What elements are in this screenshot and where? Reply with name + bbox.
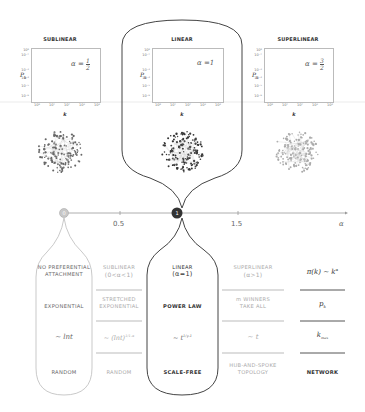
ytick-label: 10⁻¹ bbox=[15, 53, 29, 57]
cell-lin-network: SCALE-FREE bbox=[147, 369, 218, 376]
xtick-label: 10³ bbox=[76, 103, 88, 107]
xtick-label: 10⁴ bbox=[91, 103, 103, 107]
marker-label-1: 1 bbox=[174, 210, 180, 216]
cell-nopa-type: NO PREFERENTIALATTACHMENT bbox=[36, 264, 92, 278]
axis-label-0-5: 0.5 bbox=[113, 220, 124, 228]
xtick-label: 10⁰ bbox=[31, 103, 43, 107]
cell-nopa-kmax: ~ lnt bbox=[36, 334, 92, 341]
xtick-label: 10¹ bbox=[167, 103, 179, 107]
cell-nopa-network: RANDOM bbox=[36, 369, 92, 376]
legend-pi-k: π(k) ~ kα bbox=[300, 266, 345, 276]
xtick-label: 10² bbox=[182, 103, 194, 107]
cell-sup-type: SUPERLINEAR(α>1) bbox=[222, 264, 284, 278]
ytick-label: 10⁰ bbox=[248, 48, 262, 52]
ytick-label: 10⁻⁶ bbox=[136, 94, 150, 98]
legend-kmax: kmax bbox=[300, 332, 345, 342]
ytick-label: 10⁻³ bbox=[248, 68, 262, 72]
ytick-label: 10⁻⁴ bbox=[248, 76, 262, 80]
legend-network: NETWORK bbox=[300, 369, 345, 376]
cell-lin-type: LINEAR(α=1) bbox=[147, 264, 218, 278]
panel-title-superlinear: SUPERLINEAR bbox=[258, 36, 338, 42]
alpha-label-sublinear: α = 1 2 bbox=[71, 58, 90, 71]
xtick-label: 10⁴ bbox=[212, 103, 224, 107]
xtick-label: 10⁰ bbox=[264, 103, 276, 107]
ytick-label: 10⁻¹ bbox=[136, 53, 150, 57]
ytick-label: 10⁻⁴ bbox=[136, 76, 150, 80]
xtick-label: 10² bbox=[294, 103, 306, 107]
cell-lin-pk: POWER LAW bbox=[147, 303, 218, 310]
xtick-label: 10³ bbox=[309, 103, 321, 107]
ytick-label: 10⁻⁵ bbox=[248, 84, 262, 88]
ytick-label: 10⁰ bbox=[15, 48, 29, 52]
ytick-label: 10⁻³ bbox=[15, 68, 29, 72]
panel-title-sublinear: SUBLINEAR bbox=[20, 36, 100, 42]
ytick-label: 10⁻³ bbox=[136, 68, 150, 72]
cell-sub-network: RANDOM bbox=[96, 369, 142, 376]
ytick-label: 10⁰ bbox=[136, 48, 150, 52]
alpha-label-linear: α =1 bbox=[197, 59, 214, 67]
cell-sub-pk: STRETCHEDEXPONENTIAL bbox=[96, 296, 142, 310]
xlabel-superlinear: k bbox=[289, 111, 299, 117]
cell-lin-kmax: ~ t1/γ-1 bbox=[147, 333, 218, 342]
cell-sub-kmax: ~ (lnt)1/1-α bbox=[96, 333, 142, 342]
xtick-label: 10¹ bbox=[46, 103, 58, 107]
marker-label-0: 0 bbox=[61, 210, 67, 216]
cell-sup-kmax: ~ t bbox=[222, 334, 284, 341]
cell-sup-pk: m WINNERSTAKE ALL bbox=[222, 296, 284, 310]
xtick-label: 10⁴ bbox=[324, 103, 336, 107]
legend-pk: pk bbox=[300, 301, 345, 310]
xlabel-sublinear: k bbox=[60, 111, 70, 117]
xtick-label: 10⁰ bbox=[152, 103, 164, 107]
xtick-label: 10² bbox=[61, 103, 73, 107]
cell-nopa-pk: EXPONENTIAL bbox=[36, 303, 92, 310]
alpha-label-superlinear: α = 3 2 bbox=[305, 58, 324, 71]
panel-title-linear: LINEAR bbox=[142, 36, 222, 42]
ytick-label: 10⁻⁴ bbox=[15, 76, 29, 80]
xtick-label: 10³ bbox=[197, 103, 209, 107]
ytick-label: 10⁻⁵ bbox=[136, 84, 150, 88]
ytick-label: 10⁻⁶ bbox=[15, 94, 29, 98]
cell-sup-network: HUB-AND-SPOKETOPOLOGY bbox=[222, 362, 284, 376]
xtick-label: 10¹ bbox=[279, 103, 291, 107]
ytick-label: 10⁻¹ bbox=[248, 53, 262, 57]
axis-variable-alpha: α bbox=[339, 220, 344, 228]
ytick-label: 10⁻⁶ bbox=[248, 94, 262, 98]
cell-sub-type: SUBLINEAR(0<α<1) bbox=[96, 264, 142, 278]
plot-linear bbox=[152, 48, 224, 103]
ytick-label: 10⁻⁵ bbox=[15, 84, 29, 88]
plot-sublinear bbox=[31, 48, 101, 103]
axis-label-1-5: 1.5 bbox=[231, 220, 242, 228]
xlabel-linear: k bbox=[177, 111, 187, 117]
